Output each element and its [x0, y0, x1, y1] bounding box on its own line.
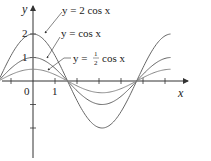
svg-text:1: 1: [94, 50, 98, 58]
y-tick-label-2: 2: [22, 27, 28, 39]
svg-text:2: 2: [94, 59, 98, 67]
y-tick-label-1: 1: [22, 51, 28, 63]
origin-label: 0: [24, 85, 30, 97]
svg-text:y =: y =: [73, 52, 87, 64]
chart-canvas: y x 0 1 1 2 y = 2 cos x y = cos x y = 1 …: [0, 0, 211, 161]
pointer-2cos: [45, 12, 62, 33]
y-axis-label: y: [21, 2, 28, 16]
x-axis-label: x: [177, 86, 184, 100]
pointer-cos: [47, 37, 60, 58]
annotation-2cos: y = 2 cos x: [62, 4, 111, 16]
svg-text:cos x: cos x: [102, 52, 125, 64]
annotation-cos: y = cos x: [61, 27, 102, 39]
annotation-half-cos: y = 1 2 cos x: [48, 50, 125, 70]
x-tick-label-1: 1: [52, 85, 58, 97]
